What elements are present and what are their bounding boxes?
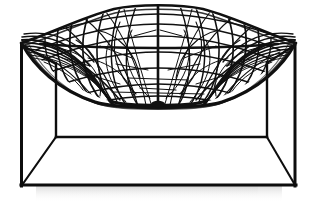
product-photo-canvas: Black woven organic mesh seat shell on a… — [0, 0, 317, 204]
shell-center-node — [151, 101, 165, 107]
chair-product-photograph — [0, 0, 317, 204]
floor-reflection — [36, 186, 282, 202]
